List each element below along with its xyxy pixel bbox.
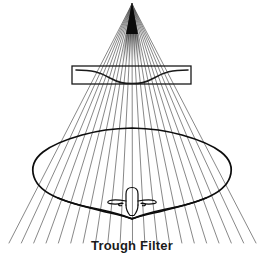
trough-filter-diagram <box>0 0 264 255</box>
figure-root: Trough Filter <box>0 0 264 255</box>
